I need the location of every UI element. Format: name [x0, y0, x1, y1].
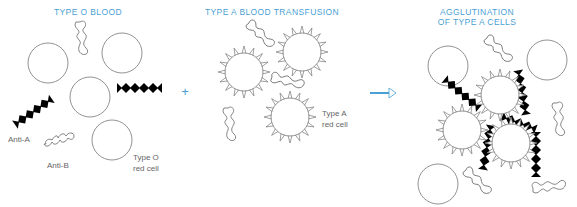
type-o-red-cell	[527, 40, 567, 80]
type-a-red-cell	[485, 117, 537, 169]
anti-b-antibody	[532, 180, 565, 193]
type-a-red-cell	[218, 46, 270, 98]
panel-agglutination: AGGLUTINATION OF TYPE A CELLS	[418, 7, 567, 204]
anti-b-antibody	[44, 133, 74, 146]
anti-b-antibody	[223, 107, 236, 140]
anti-b-antibody	[552, 102, 565, 135]
anti-a-antibody	[117, 83, 162, 93]
type-o-red-cell	[70, 77, 110, 117]
plus-icon: +	[181, 84, 189, 99]
title-type-o: TYPE O BLOOD	[54, 7, 122, 17]
type-o-red-cell	[102, 33, 142, 73]
type-a-red-cell	[436, 104, 488, 156]
type-o-red-cell	[92, 120, 132, 160]
anti-b-antibody	[269, 69, 305, 92]
anti-a-antibody	[12, 95, 55, 129]
arrow-right-icon	[370, 88, 396, 98]
anti-b-antibody	[245, 17, 276, 51]
type-a-red-cell	[276, 26, 328, 78]
title-type-a-transfusion: TYPE A BLOOD TRANSFUSION	[205, 7, 339, 17]
anti-b-antibody	[75, 21, 88, 54]
label-type-a-cell-1: Type A	[322, 109, 347, 118]
label-type-o-cell-2: red cell	[133, 164, 159, 173]
panel-type-a: TYPE A BLOOD TRANSFUSION Type A red cell	[205, 7, 348, 143]
type-a-red-cell	[264, 91, 316, 143]
anti-b-antibody	[462, 164, 493, 198]
label-anti-b: Anti-B	[47, 161, 69, 170]
label-type-a-cell-2: red cell	[322, 120, 348, 129]
anti-b-antibody	[483, 32, 514, 66]
type-o-red-cell	[28, 43, 68, 83]
type-a-red-cell	[474, 69, 526, 121]
type-o-red-cell	[418, 164, 458, 204]
panel-type-o: TYPE O BLOOD Anti-A Anti-B Type O red ce…	[8, 7, 162, 173]
title-agglutination-1: AGGLUTINATION	[440, 7, 514, 17]
agglutination-diagram: TYPE O BLOOD Anti-A Anti-B Type O red ce…	[0, 0, 577, 207]
label-type-o-cell-1: Type O	[133, 153, 159, 162]
title-agglutination-2: OF TYPE A CELLS	[438, 17, 517, 27]
label-anti-a: Anti-A	[8, 135, 30, 144]
